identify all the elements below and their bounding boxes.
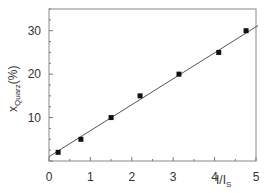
chart-container: 012345102030 xQuarz(%) I/IS (0, 0, 273, 193)
x-tick-label: 5 (253, 170, 260, 184)
x-tick-label: 3 (170, 170, 177, 184)
data-point-square (56, 150, 61, 155)
y-tick-label: 20 (28, 67, 42, 81)
scatter-plot: 012345102030 xQuarz(%) I/IS (0, 0, 273, 193)
x-tick-label: 1 (87, 170, 94, 184)
data-point-square (78, 137, 83, 142)
data-point-square (138, 93, 143, 98)
y-tick-label: 30 (28, 24, 42, 38)
data-point-square (109, 115, 114, 120)
tick-labels: 012345102030 (28, 24, 260, 184)
data-point-square (216, 50, 221, 55)
x-axis-label: I/IS (216, 173, 231, 189)
data-point-square (176, 72, 181, 77)
x-tick-label: 0 (46, 170, 53, 184)
data-point-square (244, 28, 249, 33)
y-axis-label: xQuarz(%) (6, 66, 22, 112)
x-tick-label: 2 (128, 170, 135, 184)
y-tick-label: 10 (28, 111, 42, 125)
